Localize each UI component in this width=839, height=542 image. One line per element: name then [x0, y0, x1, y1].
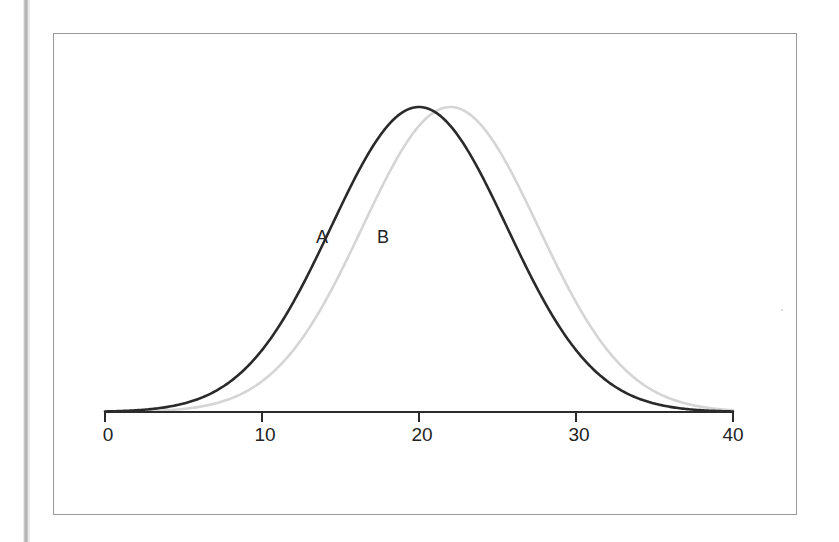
x-tick-label-20: 20: [411, 424, 432, 446]
x-tick-label-40: 40: [722, 424, 743, 446]
x-tick-label-30: 30: [568, 424, 589, 446]
curve-series-b: [105, 107, 733, 412]
curve-series-a: [105, 107, 733, 411]
document-page: 0 10 20 30 40 A B: [0, 0, 839, 542]
page-scan-edge-hairline: [29, 0, 30, 542]
curves-group: [105, 107, 733, 412]
scan-speck: [781, 309, 783, 311]
x-tick-label-10: 10: [254, 424, 275, 446]
curve-label-b: B: [377, 227, 389, 248]
x-axis-baseline: [105, 412, 733, 421]
x-tick-label-0: 0: [103, 424, 114, 446]
curve-label-a: A: [316, 227, 328, 248]
x-axis-group: [105, 412, 733, 421]
